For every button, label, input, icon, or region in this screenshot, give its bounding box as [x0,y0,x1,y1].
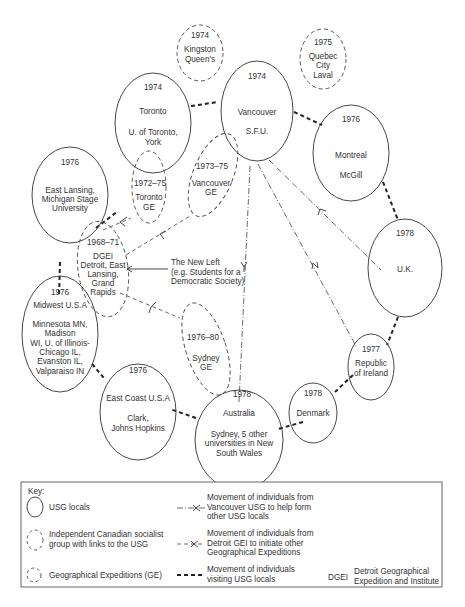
diagram-label: Queen's [185,55,215,64]
diagram-label: Denmark [296,409,330,418]
node-toronto-ge: 1972–75 Toronto GE [132,151,166,223]
diagram-label: 1974 [144,83,163,92]
diagram-label: group with links to the USG [49,540,148,549]
node-vancouver: 1974 Vancouver S.F.U. [221,61,293,161]
node-midwest: 1976 Midwest U.S.A Minnesota MN, Madison… [22,276,98,392]
new-left-annotation: The New Left (e.g. Students for a Democr… [171,258,245,286]
diagram-label: 1976 [342,115,361,124]
diagram-label: WI, U. of Illinois- [30,339,90,348]
diagram-label: 1978 [396,229,415,238]
diagram-label: Lansing, [88,270,119,279]
diagram-label: Madison [45,329,76,338]
diagram-label: Geographical Expeditions (GE) [49,571,162,580]
diagram-label: South Wales [216,449,262,458]
diagram-label: Geographical Expeditions [207,548,300,557]
abbr-dgei: DGEI [328,573,348,582]
diagram-label: GE [205,188,217,197]
diagram-label: GE [143,203,155,212]
diagram-label: Detroit Geographical [354,567,429,576]
diagram-label: 1973–75 [196,162,228,171]
diagram-label: Johns Hopkins [111,424,165,433]
diagram-label: Chicago IL, [39,348,80,357]
diagram-label: GE [200,363,212,372]
diagram-label: U.K. [397,265,413,274]
diagram-label: Toronto [139,107,167,116]
diagram-label: Vancouver USG to help form [207,503,311,512]
diagram-label: East Lansing, [45,186,95,195]
node-ireland: 1977 Republic of Ireland [348,334,394,400]
diagram-label: Michigan Stage [42,195,99,204]
diagram-label: York [145,138,162,147]
diagram-label: U. of Toronto, [129,128,178,137]
diagram-label: Valparaiso IN [36,367,85,376]
diagram-label: Independent Canadian socialist [49,530,164,539]
diagram-label: Detroit GEI to initiate other [207,539,304,548]
node-quebec: 1975 Quebec City Laval [300,29,346,89]
diagram-label: DGEI [93,252,113,261]
diagram-label: 1977 [362,345,381,354]
diagram-label: Detroit, East [80,261,126,270]
diagram-label: Grand [92,279,115,288]
diagram-label: 1968–71 [87,238,119,247]
diagram-label: 1976–80 [187,333,219,342]
node-east-coast: 1976 East Coast U.S.A Clark, Johns Hopki… [100,364,176,460]
diagram-label: Democratic Society) [171,277,245,286]
diagram-label: 1976 [129,366,148,375]
diagram-label: Laval [313,71,333,80]
diagram-label: USG locals [49,503,90,512]
legend-key: Key: USG locals Independent Canadian soc… [21,482,442,587]
diagram-label: Quebec [309,52,338,61]
diagram-label: University [52,204,89,213]
diagram-label: Movement of individuals from [207,529,314,538]
diagram-label: 1972–75 [134,179,166,188]
diagram-label: Expedition and Institute [354,577,440,586]
diagram-label: Montreal [335,151,367,160]
diagram-label: 1974 [248,72,267,81]
diagram-label: Australia [223,409,255,418]
node-kingston: 1974 Kingston Queen's [177,25,223,81]
diagram-label: (e.g. Students for a [171,268,241,277]
key-title: Key: [28,487,44,496]
diagram-label: East Coast U.S.A [106,394,170,403]
diagram-label: Movement of individuals [207,565,295,574]
diagram-label: other USG locals [207,512,269,521]
node-year: 1974 [191,31,210,40]
diagram-label: 1975 [314,38,333,47]
usg-network-diagram: 1974 Kingston Queen's 1975 Quebec City L… [0,0,465,607]
new-left-arrow [127,266,168,272]
diagram-label: Sydney [192,354,220,363]
diagram-label: visiting USG locals [207,575,275,584]
diagram-label: Midwest U.S.A [33,301,87,310]
diagram-label: Evanston IL, [37,357,83,366]
diagram-label: Vancouver [192,179,231,188]
diagram-label: Rapids [90,288,116,297]
node-toronto: 1974 Toronto U. of Toronto, York [115,73,191,173]
diagram-label: 1978 [304,389,323,398]
node-montreal: 1976 Montreal McGill [313,105,389,201]
diagram-label: Clark, [127,414,148,423]
diagram-label: S.F.U. [246,127,268,136]
node-east-lansing: 1976 East Lansing, Michigan Stage Univer… [32,147,108,243]
node-sydney-ge: 1976–80 Sydney GE [172,297,240,401]
diagram-label: of Ireland [354,369,389,378]
node-denmark: 1978 Denmark [289,383,337,443]
diagram-label: Kingston [184,45,216,54]
diagram-label: Toronto [135,193,163,202]
diagram-label: McGill [340,171,363,180]
diagram-label: Sydney, 5 other [211,430,268,439]
diagram-label: Movement of individuals from [207,493,314,502]
diagram-label: Minnesota MN, [32,320,87,329]
node-australia: 1978 Australia Sydney, 5 other universit… [195,390,283,490]
diagram-label: 1976 [51,288,70,297]
diagram-label: The New Left [171,258,220,267]
diagram-label: Vancouver [238,108,277,117]
diagram-label: 1978 [233,390,252,399]
diagram-label: City [316,61,331,70]
diagram-label: universities in New [205,439,273,448]
diagram-label: 1976 [61,158,80,167]
diagram-label: Republic [355,359,387,368]
